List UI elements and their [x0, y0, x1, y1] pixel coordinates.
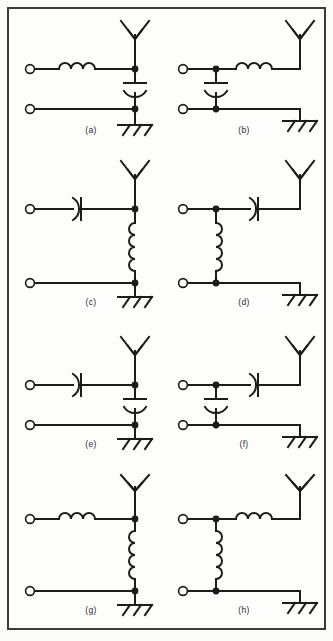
open-terminal-icon[interactable] — [26, 421, 35, 430]
circuit-g: (g) — [11, 473, 171, 633]
antenna-icon — [286, 337, 314, 385]
capacitor-icon — [124, 385, 146, 425]
circuit-caption: (e) — [11, 439, 171, 449]
circuit-caption: (g) — [11, 605, 171, 615]
figure-canvas: (a) — [0, 0, 333, 641]
antenna-icon — [121, 161, 149, 209]
open-terminal-icon[interactable] — [179, 587, 188, 596]
open-terminal-icon[interactable] — [26, 515, 35, 524]
junction-dot-icon — [213, 588, 220, 595]
inductor-coil-icon — [59, 513, 95, 519]
junction-dot-icon — [132, 588, 139, 595]
capacitor-icon — [73, 198, 81, 220]
capacitor-icon — [250, 198, 258, 220]
antenna-icon — [286, 475, 314, 519]
open-terminal-icon[interactable] — [179, 205, 188, 214]
open-terminal-icon[interactable] — [179, 279, 188, 288]
capacitor-icon — [73, 374, 81, 396]
circuit-e: (e) — [11, 329, 171, 479]
capacitor-icon — [250, 374, 258, 396]
capacitor-icon — [124, 69, 146, 109]
junction-dot-icon — [132, 280, 139, 287]
antenna-icon — [121, 21, 149, 69]
circuit-caption: (b) — [164, 125, 324, 135]
capacitor-icon — [205, 385, 227, 425]
open-terminal-icon[interactable] — [26, 587, 35, 596]
antenna-icon — [121, 475, 149, 519]
circuit-caption: (h) — [164, 605, 324, 615]
antenna-icon — [286, 161, 314, 209]
junction-dot-icon — [213, 516, 220, 523]
circuit-f-schematic — [164, 329, 324, 479]
open-terminal-icon[interactable] — [26, 279, 35, 288]
junction-dot-icon — [213, 66, 220, 73]
circuit-f: (f) — [164, 329, 324, 479]
open-terminal-icon[interactable] — [26, 381, 35, 390]
figure-border: (a) — [7, 7, 326, 630]
circuit-d: (d) — [164, 157, 324, 325]
inductor-coil-icon — [236, 513, 272, 519]
inductor-coil-icon — [216, 209, 222, 283]
junction-dot-icon — [132, 106, 139, 113]
open-terminal-icon[interactable] — [179, 515, 188, 524]
circuit-h: (h) — [164, 473, 324, 633]
open-terminal-icon[interactable] — [179, 65, 188, 74]
inductor-coil-icon — [129, 519, 135, 591]
antenna-icon — [121, 337, 149, 385]
open-terminal-icon[interactable] — [179, 105, 188, 114]
circuit-caption: (f) — [164, 439, 324, 449]
inductor-coil-icon — [129, 209, 135, 283]
junction-dot-icon — [213, 382, 220, 389]
junction-dot-icon — [132, 422, 139, 429]
inductor-coil-icon — [236, 63, 272, 69]
junction-dot-icon — [213, 106, 220, 113]
open-terminal-icon[interactable] — [179, 421, 188, 430]
circuit-a: (a) — [11, 13, 171, 163]
open-terminal-icon[interactable] — [26, 205, 35, 214]
circuit-caption: (a) — [11, 125, 171, 135]
junction-dot-icon — [132, 382, 139, 389]
circuit-caption: (c) — [11, 297, 171, 307]
circuit-b-schematic — [164, 13, 324, 163]
junction-dot-icon — [213, 422, 220, 429]
capacitor-icon — [205, 69, 227, 109]
junction-dot-icon — [132, 206, 139, 213]
circuit-a-schematic — [11, 13, 171, 163]
inductor-coil-icon — [216, 519, 222, 591]
junction-dot-icon — [213, 280, 220, 287]
antenna-icon — [286, 21, 314, 69]
circuit-b: (b) — [164, 13, 324, 163]
inductor-coil-icon — [59, 63, 95, 69]
junction-dot-icon — [213, 206, 220, 213]
junction-dot-icon — [132, 516, 139, 523]
open-terminal-icon[interactable] — [179, 381, 188, 390]
open-terminal-icon[interactable] — [26, 105, 35, 114]
circuit-caption: (d) — [164, 297, 324, 307]
open-terminal-icon[interactable] — [26, 65, 35, 74]
circuit-e-schematic — [11, 329, 171, 479]
circuit-c: (c) — [11, 157, 171, 325]
junction-dot-icon — [132, 66, 139, 73]
